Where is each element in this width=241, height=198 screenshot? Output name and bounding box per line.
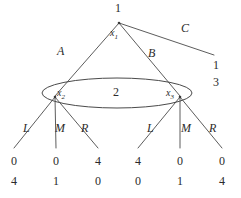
action-label-right-R: R: [209, 122, 216, 134]
payoff-t2M-player2: 1: [51, 175, 61, 187]
payoff-t3M-player2: 1: [175, 175, 185, 187]
action-label-C: C: [181, 22, 189, 34]
action-label-right-M: M: [181, 122, 191, 134]
edge-x3-L: [138, 97, 180, 148]
tree-edges-layer: [0, 0, 241, 198]
payoff-t2M-player1: 0: [51, 155, 61, 167]
node-dot-x3: [179, 96, 182, 99]
node-dot-x2: [54, 96, 57, 99]
payoff-t3L-player2: 0: [133, 175, 143, 187]
payoff-t2L-player1: 0: [9, 155, 19, 167]
action-label-A: A: [57, 45, 64, 57]
node-label-x2-sub: 2: [61, 93, 65, 101]
action-label-B: B: [148, 47, 155, 59]
node-label-x2: x2: [57, 88, 65, 101]
player-label-root: 1: [115, 2, 121, 14]
payoff-tC-player2: 3: [211, 76, 221, 88]
action-label-right-L: L: [147, 122, 154, 134]
game-tree-diagram: 1 x1 x2 x3 2 A B C L M R L M R 1 3 0 4 0…: [0, 0, 241, 198]
payoff-t2R-player2: 0: [93, 175, 103, 187]
information-set-player-label: 2: [113, 86, 119, 98]
action-label-left-R: R: [81, 122, 88, 134]
node-label-x3: x3: [166, 88, 174, 101]
payoff-t3L-player1: 4: [133, 155, 143, 167]
node-dot-root: [118, 22, 121, 25]
payoff-t3M-player1: 0: [175, 155, 185, 167]
node-label-x3-sub: 3: [170, 93, 174, 101]
edge-root-C: [119, 23, 214, 55]
node-label-x1-sub: 1: [114, 33, 118, 41]
node-label-x1: x1: [110, 28, 118, 41]
payoff-tC-player1: 1: [211, 59, 221, 71]
payoff-t3R-player1: 0: [217, 155, 227, 167]
action-label-left-L: L: [23, 122, 30, 134]
action-label-left-M: M: [55, 122, 65, 134]
payoff-t3R-player2: 4: [217, 175, 227, 187]
edge-x2-L: [14, 97, 55, 148]
payoff-t2L-player2: 4: [9, 175, 19, 187]
payoff-t2R-player1: 4: [93, 155, 103, 167]
